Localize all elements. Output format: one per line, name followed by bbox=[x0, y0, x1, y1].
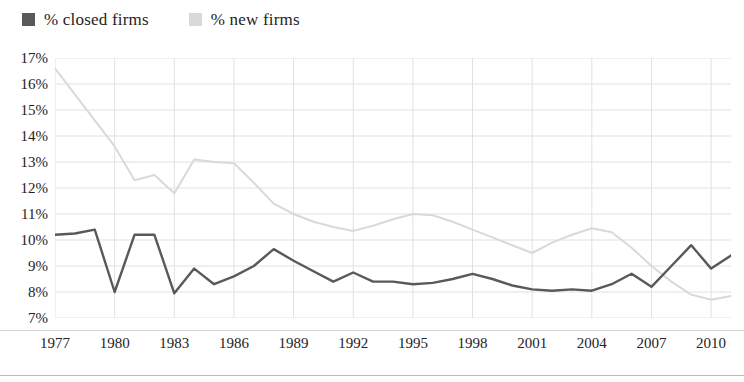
x-axis-tick-label: 1983 bbox=[159, 336, 189, 351]
y-axis-tick-label: 9% bbox=[28, 259, 48, 274]
divider-top bbox=[0, 330, 744, 331]
y-axis-tick-label: 11% bbox=[21, 207, 48, 222]
plot-area bbox=[55, 58, 731, 318]
legend-swatch-closed-firms-icon bbox=[22, 13, 35, 26]
y-axis-tick-label: 8% bbox=[28, 285, 48, 300]
y-axis-tick-label: 14% bbox=[21, 129, 49, 144]
divider-bottom bbox=[0, 375, 744, 376]
y-axis-tick-label: 13% bbox=[21, 155, 49, 170]
x-axis-tick-label: 2010 bbox=[696, 336, 726, 351]
x-axis-tick-label: 1992 bbox=[338, 336, 368, 351]
chart-container: % closed firms % new firms 17%16%15%14%1… bbox=[0, 0, 744, 382]
x-axis-tick-label: 1977 bbox=[40, 336, 70, 351]
y-axis-tick-label: 10% bbox=[21, 233, 49, 248]
legend-item-closed-firms: % closed firms bbox=[22, 11, 149, 28]
series-line-new-firms bbox=[55, 68, 731, 299]
chart-legend: % closed firms % new firms bbox=[22, 4, 300, 34]
line-chart-svg bbox=[55, 58, 731, 318]
legend-label-closed-firms: % closed firms bbox=[44, 11, 149, 28]
y-axis-tick-label: 15% bbox=[21, 103, 49, 118]
x-axis-tick-label: 1980 bbox=[100, 336, 130, 351]
x-axis-tick-label: 2001 bbox=[517, 336, 547, 351]
x-axis-tick-label: 1998 bbox=[458, 336, 488, 351]
x-axis-tick-label: 1995 bbox=[398, 336, 428, 351]
x-axis-labels: 1977198019831986198919921995199820012004… bbox=[55, 336, 731, 360]
x-axis-tick-label: 2007 bbox=[636, 336, 666, 351]
y-axis-tick-label: 12% bbox=[21, 181, 49, 196]
series-line-closed-firms bbox=[55, 230, 731, 294]
y-axis-labels: 17%16%15%14%13%12%11%10%9%8%7% bbox=[0, 58, 48, 318]
y-axis-tick-label: 16% bbox=[21, 77, 49, 92]
legend-item-new-firms: % new firms bbox=[189, 11, 300, 28]
y-axis-tick-label: 7% bbox=[28, 311, 48, 326]
legend-swatch-new-firms-icon bbox=[189, 13, 202, 26]
x-axis-tick-label: 2004 bbox=[577, 336, 607, 351]
y-axis-tick-label: 17% bbox=[21, 51, 49, 66]
x-axis-tick-label: 1986 bbox=[219, 336, 249, 351]
legend-label-new-firms: % new firms bbox=[211, 11, 300, 28]
x-axis-tick-label: 1989 bbox=[279, 336, 309, 351]
